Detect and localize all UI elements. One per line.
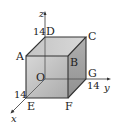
vertex-G-label: G [88,67,97,80]
x-axis-label: x [11,113,17,124]
vertex-A-label: A [15,50,25,63]
vertex-D-label: D [46,25,55,38]
x-dimension-label: 14 [14,89,27,100]
x-axis [12,98,26,112]
cube-diagram: z y x D C A B O G E F 14 14 14 [0,0,117,133]
z-axis-label: z [38,8,45,19]
y-axis-label: y [103,82,110,93]
vertex-O-label: O [36,71,45,84]
y-dimension-label: 14 [87,80,100,91]
vertex-B-label: B [70,56,78,69]
z-dimension-label: 14 [33,26,46,37]
vertex-F-label: F [65,100,73,113]
vertex-C-label: C [88,30,96,43]
vertex-E-label: E [27,100,35,113]
y-arrow-icon [107,78,111,81]
